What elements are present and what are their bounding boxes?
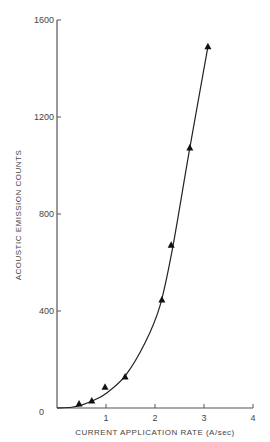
x-tick-label: 1 <box>103 413 108 423</box>
y-tick-label: 1200 <box>34 112 54 122</box>
y-tick-label: 1600 <box>34 15 54 25</box>
triangle-marker <box>204 43 211 50</box>
x-tick-label: 3 <box>201 413 206 423</box>
triangle-marker <box>76 400 83 407</box>
data-points <box>76 43 212 407</box>
axes: 1234040080012001600 <box>34 15 256 423</box>
x-tick-label: 4 <box>250 413 255 423</box>
triangle-marker <box>102 383 109 390</box>
x-axis-label: CURRENT APPLICATION RATE (A/sec) <box>75 428 235 437</box>
y-axis-label: ACOUSTIC EMISSION COUNTS <box>14 150 23 281</box>
triangle-marker <box>122 373 129 380</box>
y-tick-label: 0 <box>39 407 44 417</box>
y-tick-label: 800 <box>39 209 54 219</box>
x-tick-label: 2 <box>152 413 157 423</box>
triangle-marker <box>186 144 193 151</box>
triangle-marker <box>158 296 165 303</box>
axis-labels: CURRENT APPLICATION RATE (A/sec) ACOUSTI… <box>14 150 235 437</box>
chart: 1234040080012001600 CURRENT APPLICATION … <box>0 0 270 442</box>
fit-curve <box>57 47 208 408</box>
y-tick-label: 400 <box>39 306 54 316</box>
